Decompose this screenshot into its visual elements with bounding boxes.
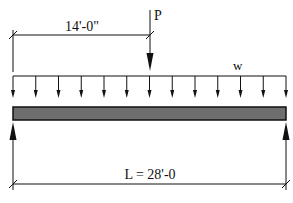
point-load-label: P: [154, 8, 162, 23]
support-reaction-left: [10, 122, 17, 190]
load-arrow-icon: [102, 76, 106, 98]
load-arrow-icon: [261, 76, 265, 98]
load-arrow-icon: [148, 76, 152, 98]
reaction-arrow-up-icon: [10, 122, 17, 140]
distributed-load-label: w: [233, 58, 243, 73]
reaction-arrow-up-icon: [283, 122, 290, 140]
load-arrow-icon: [34, 76, 38, 98]
load-arrow-icon: [239, 76, 243, 98]
beam: [13, 107, 286, 120]
load-arrow-icon: [216, 76, 220, 98]
load-arrow-icon: [170, 76, 174, 98]
point-load-arrow-icon: [147, 53, 154, 71]
load-arrow-icon: [57, 76, 61, 98]
support-reaction-right: [283, 122, 290, 190]
load-arrow-icon: [125, 76, 129, 98]
point-load-dimension: 14'-0": [9, 19, 154, 72]
load-arrow-icon: [11, 76, 15, 98]
span-dimension: L = 28'-0: [9, 167, 290, 188]
load-arrow-icon: [284, 76, 288, 98]
beam-diagram: 14'-0" P w: [0, 0, 293, 203]
distributed-load-arrows: [11, 76, 288, 98]
span-label: L = 28'-0: [124, 167, 175, 182]
load-arrow-icon: [193, 76, 197, 98]
point-load-p: P: [147, 8, 163, 71]
point-load-position-label: 14'-0": [65, 19, 99, 34]
load-arrow-icon: [79, 76, 83, 98]
